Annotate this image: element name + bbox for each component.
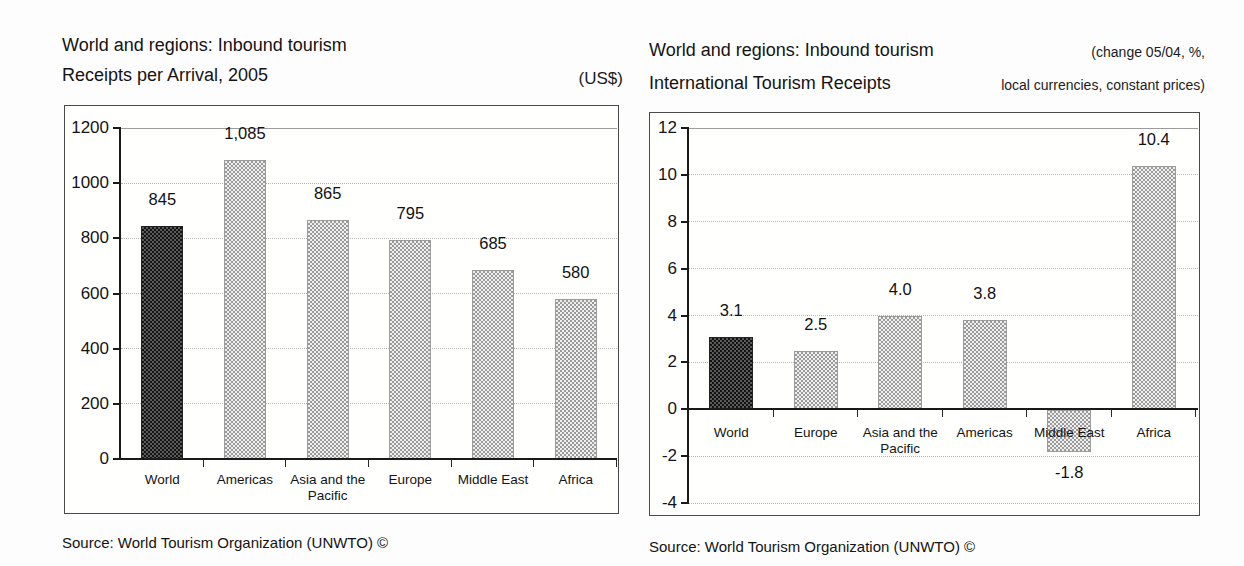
y-tick-label: 4 — [650, 306, 677, 326]
x-axis-tick — [1111, 410, 1112, 417]
y-tick-label: 0 — [65, 449, 109, 469]
y-tick-label: 6 — [650, 259, 677, 279]
gridline-y-10 — [689, 174, 1198, 175]
bar-asia-and-the-pacific — [878, 316, 922, 410]
x-axis-tick — [1026, 410, 1027, 417]
y-tick-label: 12 — [650, 118, 677, 138]
gridline-y--4 — [689, 503, 1198, 504]
bar-asia-and-the-pacific — [307, 220, 349, 459]
category-label: World — [118, 472, 206, 488]
y-tick-label: 800 — [65, 228, 109, 248]
bar-americas — [224, 160, 266, 459]
gridline-y-2 — [689, 362, 1198, 363]
gridline-y-800 — [121, 238, 617, 239]
x-axis-tick — [1195, 410, 1196, 417]
category-label: Africa — [532, 472, 620, 488]
gridline-y-12 — [689, 128, 1198, 129]
category-label: Africa — [1110, 425, 1198, 441]
bar-europe — [794, 351, 838, 410]
category-label: Middle East — [1025, 425, 1113, 441]
bar-value-label: 4.0 — [855, 280, 945, 299]
y-axis-line — [119, 128, 121, 459]
category-label: Americas — [941, 425, 1029, 441]
bar-africa — [1132, 166, 1176, 410]
x-axis-tick — [285, 460, 286, 467]
category-label: Europe — [366, 472, 454, 488]
left-chart-title-line2: Receipts per Arrival, 2005 — [62, 65, 268, 86]
bar-americas — [963, 320, 1007, 409]
bar-value-label: 795 — [365, 204, 455, 223]
y-tick-label: 1200 — [65, 118, 109, 138]
x-axis-tick — [942, 410, 943, 417]
x-axis-tick — [368, 460, 369, 467]
bar-value-label: 3.1 — [686, 301, 776, 320]
y-tick-label: -4 — [650, 493, 677, 513]
left-chart-source-note: Source: World Tourism Organization (UNWT… — [62, 534, 388, 551]
bar-world — [709, 337, 753, 410]
x-axis-line — [689, 408, 1198, 410]
gridline-y-200 — [121, 403, 617, 404]
left-chart-title-line1: World and regions: Inbound tourism — [62, 35, 347, 56]
bar-value-label: 2.5 — [771, 315, 861, 334]
left-chart-plot-area: 020040060080010001200845World1,085Americ… — [64, 105, 619, 514]
y-tick-label: -2 — [650, 446, 677, 466]
right-chart-title-line2: International Tourism Receipts — [649, 73, 891, 94]
category-label: Middle East — [449, 472, 537, 488]
bar-value-label: 685 — [448, 234, 538, 253]
bar-value-label: 580 — [531, 263, 621, 282]
bar-value-label: 3.8 — [940, 284, 1030, 303]
y-tick-label: 600 — [65, 284, 109, 304]
gridline-y-1200 — [121, 128, 617, 129]
category-label: Europe — [772, 425, 860, 441]
bar-middle-east — [472, 270, 514, 459]
bar-europe — [389, 240, 431, 459]
y-tick-label: 8 — [650, 212, 677, 232]
right-chart-title-line1: World and regions: Inbound tourism — [649, 40, 934, 61]
category-label: Asia and the Pacific — [284, 472, 372, 504]
bar-world — [141, 226, 183, 459]
bar-value-label: -1.8 — [1024, 463, 1114, 482]
y-tick-label: 2 — [650, 352, 677, 372]
category-label: Americas — [201, 472, 289, 488]
bar-value-label: 10.4 — [1109, 130, 1199, 149]
gridline-y-8 — [689, 221, 1198, 222]
category-label: World — [687, 425, 775, 441]
x-axis-tick — [773, 410, 774, 417]
right-chart-unit-line2: local currencies, constant prices) — [905, 77, 1205, 93]
x-axis-tick — [616, 460, 617, 467]
left-chart-unit-label: (US$) — [423, 69, 623, 89]
y-tick-label: 10 — [650, 165, 677, 185]
x-axis-tick — [857, 410, 858, 417]
bar-africa — [555, 299, 597, 459]
bar-value-label: 1,085 — [200, 124, 290, 143]
y-tick-label: 400 — [65, 339, 109, 359]
y-tick-label: 0 — [650, 399, 677, 419]
right-chart-source-note: Source: World Tourism Organization (UNWT… — [649, 538, 975, 555]
right-chart-plot-area: -4-20246810123.1World2.5Europe4.0Asia an… — [649, 112, 1200, 516]
gridline-y-6 — [689, 268, 1198, 269]
bar-value-label: 845 — [117, 190, 207, 209]
right-chart-unit-line1: (change 05/04, %, — [905, 44, 1205, 60]
y-tick-label: 1000 — [65, 173, 109, 193]
gridline-y-600 — [121, 293, 617, 294]
y-tick-label: 200 — [65, 394, 109, 414]
bar-value-label: 865 — [283, 184, 373, 203]
x-axis-tick — [451, 460, 452, 467]
category-label: Asia and the Pacific — [856, 425, 944, 457]
x-axis-tick — [533, 460, 534, 467]
gridline-y-400 — [121, 348, 617, 349]
x-axis-tick — [203, 460, 204, 467]
scanned-chart-page: World and regions: Inbound tourism Recei… — [0, 0, 1244, 566]
x-axis-line — [121, 458, 617, 460]
